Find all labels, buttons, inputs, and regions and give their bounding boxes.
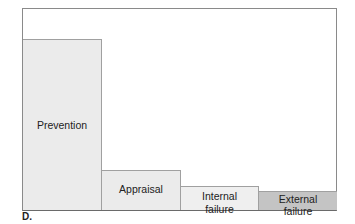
bar-label-prevention: Prevention <box>37 120 87 131</box>
bar-label-external-failure: External failure <box>279 193 318 217</box>
bar-label-internal-line2: failure <box>202 204 237 215</box>
bar-label-internal-failure: Internal failure <box>202 189 237 215</box>
bar-appraisal: Appraisal <box>102 170 181 210</box>
bar-external-failure: External failure <box>259 191 337 210</box>
bar-label-external-line1: External <box>279 194 318 205</box>
bar-prevention: Prevention <box>23 39 102 210</box>
bar-label-external-line2: failure <box>279 206 318 217</box>
panel-label: D. <box>22 211 32 222</box>
bar-internal-failure: Internal failure <box>181 186 259 210</box>
bar-label-internal-line1: Internal <box>202 191 237 202</box>
bar-label-appraisal: Appraisal <box>119 184 163 195</box>
chart-frame: Prevention Appraisal Internal failure Ex… <box>22 8 337 211</box>
